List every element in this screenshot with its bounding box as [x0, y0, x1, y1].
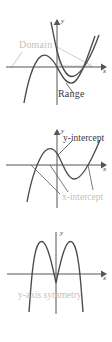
figure-sheet: y x Domain Range y x [0, 0, 112, 342]
panel-intercepts: y x y-intercept x-intercept [0, 112, 112, 224]
x-intercept-leaders [31, 165, 93, 194]
x-axis-arrow [101, 64, 107, 71]
y-axis-arrow [54, 19, 61, 25]
x-axis-arrow [101, 162, 107, 169]
cubic-curve [24, 36, 95, 103]
axes-group [6, 19, 107, 105]
y-axis-arrow [54, 129, 61, 135]
y-intercept-leader [58, 141, 72, 155]
axes-group [7, 232, 107, 314]
x-axis-arrow [101, 271, 107, 278]
panel-domain-range: y x Domain Range [0, 0, 112, 112]
axes-group [6, 129, 107, 208]
range-leader [66, 83, 74, 94]
panel-symmetry: y x y-axis symmetry [0, 224, 112, 342]
domain-leader [11, 47, 92, 68]
